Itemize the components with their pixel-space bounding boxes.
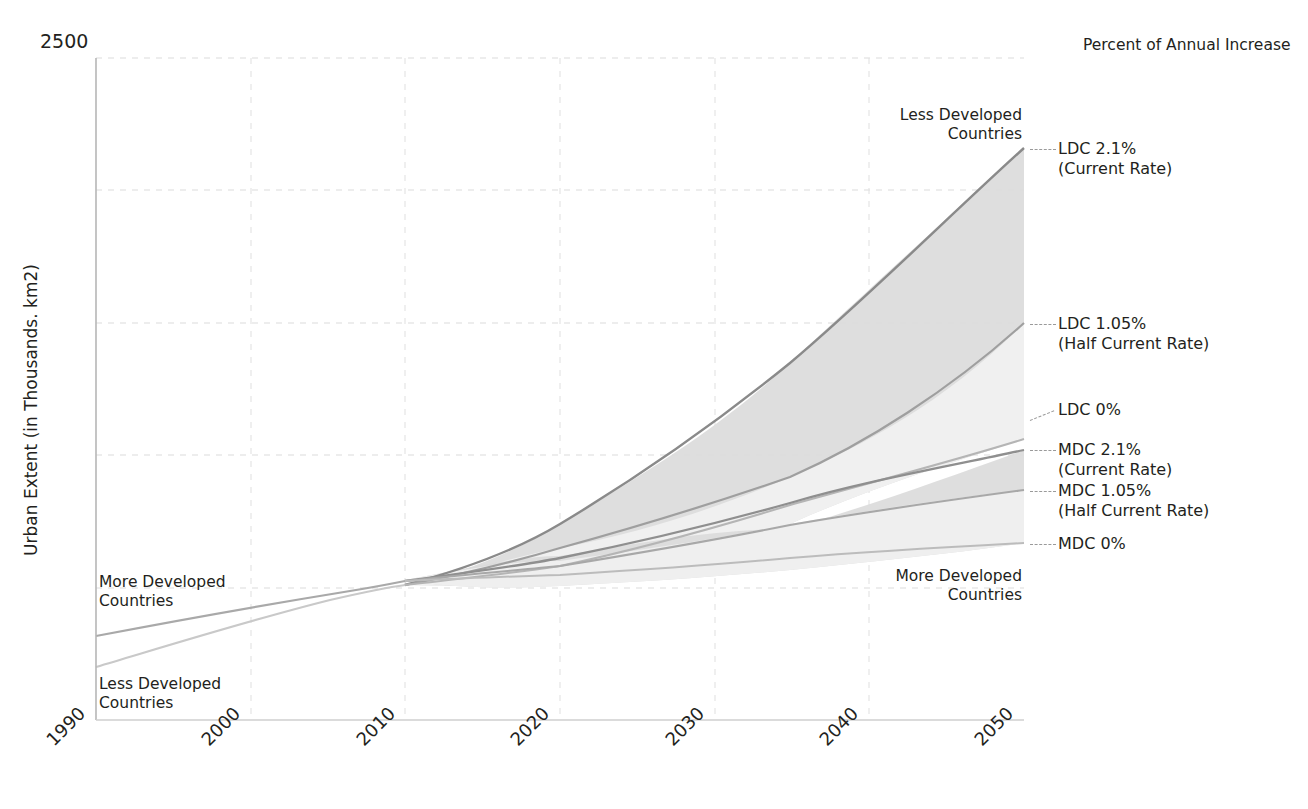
- leader-mdc-105: [1030, 491, 1056, 492]
- annotation-mdc-left-line1: More Developed: [99, 573, 226, 592]
- series-label-ldc-21: LDC 2.1% (Current Rate): [1058, 139, 1172, 178]
- annotation-mdc-left: More Developed Countries: [99, 573, 226, 612]
- annotation-mdc-left-line2: Countries: [99, 592, 226, 611]
- chart-root: 2500 Percent of Annual Increase Urban Ex…: [0, 0, 1308, 809]
- series-label-ldc-105-line1: LDC 1.05%: [1058, 314, 1209, 334]
- annotation-mdc-bottom-right-line1: More Developed: [836, 567, 1022, 586]
- series-label-ldc-0-line1: LDC 0%: [1058, 400, 1121, 420]
- series-label-mdc-21-line2: (Current Rate): [1058, 460, 1172, 480]
- series-label-mdc-105: MDC 1.05% (Half Current Rate): [1058, 481, 1209, 520]
- leader-mdc-0: [1030, 544, 1056, 545]
- annotation-ldc-top-right-line2: Countries: [836, 125, 1022, 144]
- series-label-ldc-21-line2: (Current Rate): [1058, 159, 1172, 179]
- leader-mdc-21: [1030, 450, 1056, 451]
- annotation-ldc-left-line2: Countries: [99, 694, 221, 713]
- series-label-ldc-0: LDC 0%: [1058, 400, 1121, 420]
- series-label-ldc-105-line2: (Half Current Rate): [1058, 334, 1209, 354]
- series-label-mdc-0-line1: MDC 0%: [1058, 534, 1126, 554]
- leader-ldc-105: [1030, 324, 1056, 325]
- series-label-ldc-21-line1: LDC 2.1%: [1058, 139, 1172, 159]
- series-label-mdc-21-line1: MDC 2.1%: [1058, 440, 1172, 460]
- series-label-mdc-105-line1: MDC 1.05%: [1058, 481, 1209, 501]
- annotation-ldc-left-line1: Less Developed: [99, 675, 221, 694]
- annotation-ldc-top-right-line1: Less Developed: [836, 106, 1022, 125]
- series-label-mdc-105-line2: (Half Current Rate): [1058, 501, 1209, 521]
- leader-ldc-21: [1030, 149, 1056, 150]
- series-label-mdc-0: MDC 0%: [1058, 534, 1126, 554]
- series-label-ldc-105: LDC 1.05% (Half Current Rate): [1058, 314, 1209, 353]
- annotation-mdc-bottom-right-line2: Countries: [836, 586, 1022, 605]
- annotation-ldc-left: Less Developed Countries: [99, 675, 221, 714]
- annotation-ldc-top-right: Less Developed Countries: [836, 106, 1022, 145]
- series-label-mdc-21: MDC 2.1% (Current Rate): [1058, 440, 1172, 479]
- annotation-mdc-bottom-right: More Developed Countries: [836, 567, 1022, 606]
